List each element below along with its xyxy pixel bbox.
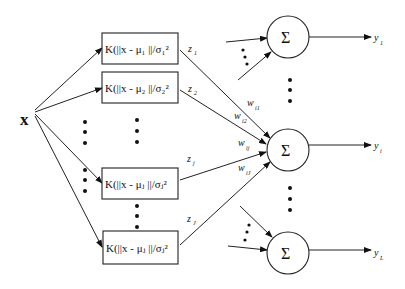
- svg-text:y: y: [373, 140, 379, 151]
- svg-text:i: i: [380, 148, 382, 154]
- svg-text:2: 2: [194, 90, 197, 96]
- svg-text:1: 1: [194, 50, 197, 56]
- svg-text:w: w: [238, 137, 245, 148]
- rbf-network-diagram: x K(||x - μ₁ ||/σ₁² K(||x - μ₂ ||/σ₂² K(…: [0, 0, 405, 289]
- svg-text:j: j: [192, 160, 195, 166]
- svg-text:w: w: [234, 110, 241, 121]
- input-connections: [35, 48, 102, 247]
- svg-text:w: w: [247, 97, 254, 108]
- weight-labels: w i1 w i2 w ij w iJ: [234, 97, 260, 176]
- kernel-unit-1: K(||x - μ₁ ||/σ₁²: [102, 33, 178, 64]
- kernel-unit-2: K(||x - μ₂ ||/σ₂²: [102, 72, 178, 103]
- svg-text:i1: i1: [255, 105, 260, 111]
- svg-text:1: 1: [380, 40, 383, 46]
- top-sum-inputs: [226, 38, 271, 80]
- kernel-unit-label: K(||x - μⱼ ||/σⱼ²: [106, 242, 169, 255]
- kernel-unit-j: K(||x - μⱼ ||/σⱼ²: [102, 168, 178, 199]
- summation-node-i: Σ y i: [267, 129, 382, 171]
- svg-text:iJ: iJ: [246, 170, 251, 176]
- bottom-sum-inputs: [228, 206, 272, 250]
- svg-text:z: z: [187, 43, 192, 54]
- kernel-unit-label: K(||x - μ₂ ||/σ₂²: [105, 82, 169, 95]
- weight-connections: [180, 50, 270, 245]
- sigma-symbol: Σ: [281, 245, 290, 262]
- svg-text:L: L: [379, 255, 384, 261]
- svg-text:z: z: [187, 83, 192, 94]
- svg-text:y: y: [373, 32, 379, 43]
- kernel-output-labels: z 1 z 2 z j z J: [186, 43, 197, 226]
- sigma-symbol: Σ: [281, 29, 290, 46]
- kernel-unit-J: K(||x - μⱼ ||/σⱼ²: [103, 231, 178, 264]
- kernel-unit-label: K(||x - μⱼ ||/σⱼ²: [105, 178, 168, 191]
- svg-text:ij: ij: [246, 145, 250, 151]
- svg-text:z: z: [186, 153, 191, 164]
- svg-text:i2: i2: [242, 118, 247, 124]
- input-x-label: x: [20, 110, 29, 129]
- summation-node-1: Σ y 1: [267, 16, 383, 58]
- svg-text:z: z: [186, 213, 191, 224]
- sigma-symbol: Σ: [281, 142, 290, 159]
- svg-text:y: y: [373, 247, 379, 258]
- summation-node-L: Σ y L: [267, 232, 384, 274]
- svg-text:w: w: [238, 162, 245, 173]
- ellipsis-dots-left: [83, 120, 87, 193]
- kernel-unit-label: K(||x - μ₁ ||/σ₁²: [105, 43, 169, 56]
- svg-text:J: J: [193, 220, 196, 226]
